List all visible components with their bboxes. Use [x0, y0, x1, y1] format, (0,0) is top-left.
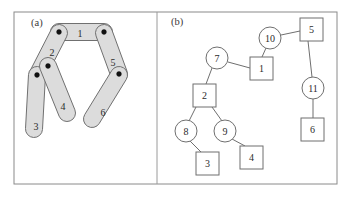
link-2-label: 2: [50, 47, 55, 58]
square-5[interactable]: 5: [300, 18, 323, 41]
square-4[interactable]: 4: [240, 146, 263, 169]
joint-d: [35, 73, 40, 78]
circle-11[interactable]: 11: [302, 77, 324, 99]
link-6-label: 6: [101, 107, 106, 118]
link-5-label: 5: [111, 57, 116, 68]
circle-7[interactable]: 7: [206, 47, 228, 69]
circle-7-label: 7: [215, 53, 220, 64]
figure-root: (a) 123456 (b) 123456 7891011: [0, 0, 350, 197]
circle-10[interactable]: 10: [259, 27, 281, 49]
link-1-label: 1: [78, 28, 83, 39]
square-2[interactable]: 2: [193, 84, 216, 107]
circle-11-label: 11: [308, 83, 318, 94]
circle-8[interactable]: 8: [175, 120, 197, 142]
circle-8-label: 8: [184, 126, 189, 137]
square-6[interactable]: 6: [301, 118, 324, 141]
joint-c: [46, 64, 51, 69]
square-4-label: 4: [249, 152, 254, 163]
joint-b: [102, 30, 107, 35]
joint-a: [57, 30, 62, 35]
panel-b-label: (b): [171, 16, 184, 28]
circle-9[interactable]: 9: [214, 120, 236, 142]
link-4-label: 4: [61, 101, 66, 112]
square-6-label: 6: [310, 124, 315, 135]
square-2-label: 2: [202, 90, 207, 101]
circle-10-label: 10: [265, 33, 275, 44]
joint-e: [117, 72, 122, 77]
square-3-label: 3: [205, 158, 210, 169]
figure-canvas: (a) 123456 (b) 123456 7891011: [0, 0, 350, 197]
square-3[interactable]: 3: [196, 152, 219, 175]
panel-a-label: (a): [31, 17, 43, 29]
square-5-label: 5: [309, 24, 314, 35]
square-1[interactable]: 1: [250, 57, 273, 80]
square-1-label: 1: [259, 63, 264, 74]
circle-9-label: 9: [223, 126, 228, 137]
link-3-label: 3: [34, 121, 39, 132]
